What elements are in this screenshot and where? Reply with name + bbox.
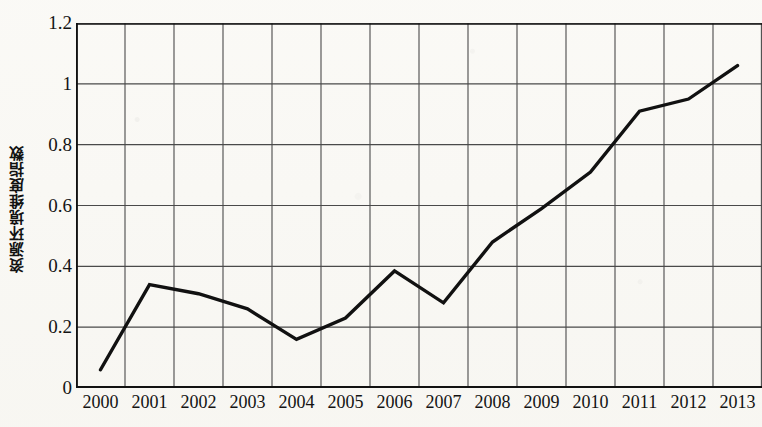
y-tick-label: 0.4 — [28, 255, 72, 277]
x-tick-label: 2002 — [181, 392, 217, 413]
x-tick-label: 2000 — [83, 392, 119, 413]
y-tick-label: 0 — [28, 377, 72, 399]
x-tick-label: 2011 — [622, 392, 657, 413]
x-axis-tick-labels: 2000200120022003200420052006200720082009… — [76, 392, 762, 424]
x-tick-label: 2012 — [671, 392, 707, 413]
y-tick-label: 1.2 — [28, 12, 72, 34]
x-tick-label: 2004 — [279, 392, 315, 413]
y-tick-label: 0.2 — [28, 316, 72, 338]
y-tick-label: 0.8 — [28, 134, 72, 156]
x-tick-label: 2005 — [328, 392, 364, 413]
x-tick-label: 2009 — [524, 392, 560, 413]
x-tick-label: 2010 — [573, 392, 609, 413]
x-tick-label: 2001 — [132, 392, 168, 413]
y-axis-tick-labels: 00.20.40.60.811.2 — [14, 0, 72, 427]
y-tick-label: 1 — [28, 73, 72, 95]
x-tick-label: 2008 — [475, 392, 511, 413]
x-tick-label: 2006 — [377, 392, 413, 413]
x-tick-label: 2003 — [230, 392, 266, 413]
plot-area — [76, 23, 762, 388]
y-tick-label: 0.6 — [28, 195, 72, 217]
chart-page: 资源环境维度指数 00.20.40.60.811.2 2000200120022… — [0, 0, 762, 427]
chart-svg — [76, 23, 762, 388]
x-tick-label: 2007 — [426, 392, 462, 413]
x-tick-label: 2013 — [720, 392, 756, 413]
